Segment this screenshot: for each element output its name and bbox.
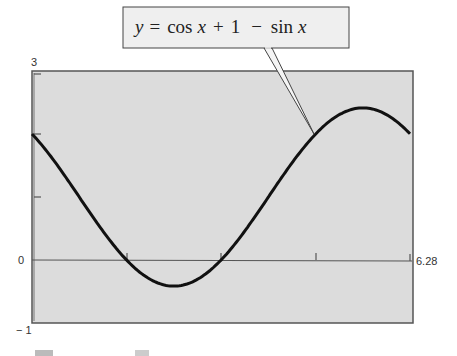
y-min-label: − 1 <box>16 324 32 336</box>
x-max-label: 6.28 <box>416 255 437 267</box>
y-max-label: 3 <box>31 56 37 68</box>
callout-equation: y=cosx+1−sinx <box>133 16 307 37</box>
y-zero-label: 0 <box>18 254 24 266</box>
caption-fragment <box>135 350 149 356</box>
caption-fragment <box>35 350 53 356</box>
chart-figure: 3 0 − 1 6.28 y=cosx+1−sinx <box>0 0 457 356</box>
